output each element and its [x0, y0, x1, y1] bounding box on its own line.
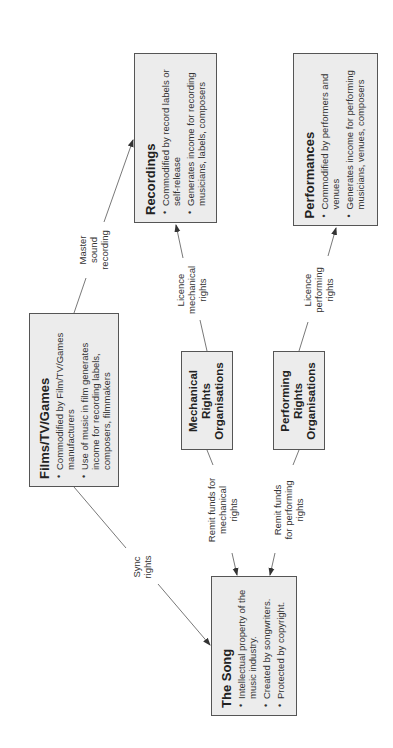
label-line: rights — [324, 267, 335, 312]
node-title-line: Performing — [279, 353, 292, 448]
edge-remit-mech-a — [207, 450, 213, 465]
edge-licmech-b — [176, 225, 183, 258]
edge-licperf-b — [328, 228, 336, 256]
node-bullet: Commodified by record labels or self-rel… — [159, 59, 181, 206]
edge-label-remit-funds-performing: Remit funds for performing rights — [272, 480, 305, 539]
label-line: mechanical — [186, 266, 197, 314]
node-bullet: Generates income for recording musicians… — [184, 59, 206, 206]
node-bullet: Protected by copyright. — [275, 582, 286, 699]
node-bullet: Intellectual property of the music indus… — [236, 582, 258, 699]
edge-label-master-sound-recording: Master sound recording — [77, 230, 110, 270]
node-mechanical-rights-organisations: Mechanical Rights Organisations — [181, 351, 233, 450]
node-title-line: Organisations — [305, 353, 318, 448]
edge-remit-mech-b — [232, 553, 237, 575]
label-line: Master — [77, 230, 88, 270]
label-line: for performing — [283, 480, 294, 539]
node-bullet: Generates income for performing musician… — [343, 59, 365, 209]
label-line: performing — [313, 267, 324, 312]
edge-label-licence-mechanical-rights: Licence mechanical rights — [175, 266, 208, 314]
label-line: recording — [99, 230, 110, 270]
edge-master-b — [104, 140, 133, 222]
node-bullet: Created by songwriters. — [261, 582, 272, 699]
edge-licmech-a — [200, 320, 207, 351]
node-title: The Song — [219, 582, 234, 708]
label-line: rights — [197, 266, 208, 314]
label-line: rights — [142, 555, 153, 578]
edge-licperf-a — [299, 322, 308, 351]
label-line: Licence — [175, 266, 186, 314]
edge-label-remit-funds-mechanical: Remit funds for mechanical rights — [206, 478, 239, 542]
label-line: mechanical — [217, 478, 228, 542]
node-bullet: Use of music in film generates income fo… — [79, 319, 112, 470]
node-performing-rights-organisations: Performing Rights Organisations — [273, 351, 325, 450]
label-line: rights — [228, 478, 239, 542]
edge-sync-a — [74, 487, 126, 548]
node-bullet: Commodified by performers and venues — [318, 59, 340, 209]
edge-remit-perf-a — [293, 450, 299, 465]
label-line: Remit funds for — [206, 478, 217, 542]
edge-sync-b — [158, 584, 210, 645]
node-title: Performances — [301, 59, 316, 218]
edge-label-sync-rights: Sync rights — [131, 555, 153, 578]
node-bullet: Commodified by Film/TV/Games manufacture… — [54, 319, 76, 470]
node-title: Films/TV/Games — [37, 319, 52, 479]
node-title-line: Mechanical — [187, 353, 200, 448]
edge-label-licence-performing-rights: Licence performing rights — [302, 267, 335, 312]
node-title-line: Organisations — [213, 353, 226, 448]
node-performances: Performances Commodified by performers a… — [293, 53, 378, 226]
label-line: Remit funds — [272, 480, 283, 539]
label-line: rights — [294, 480, 305, 539]
node-recordings: Recordings Commodified by record labels … — [134, 53, 217, 223]
edge-remit-perf-b — [270, 553, 275, 575]
label-line: Sync — [131, 555, 142, 578]
label-line: sound — [88, 230, 99, 270]
edge-master-a — [74, 278, 86, 313]
node-the-song: The Song Intellectual property of the mu… — [211, 576, 297, 716]
node-title: Recordings — [142, 59, 157, 215]
label-line: Licence — [302, 267, 313, 312]
node-title-line: Rights — [292, 353, 305, 448]
node-title-line: Rights — [200, 353, 213, 448]
node-films-tv-games: Films/TV/Games Commodified by Film/TV/Ga… — [29, 313, 119, 487]
